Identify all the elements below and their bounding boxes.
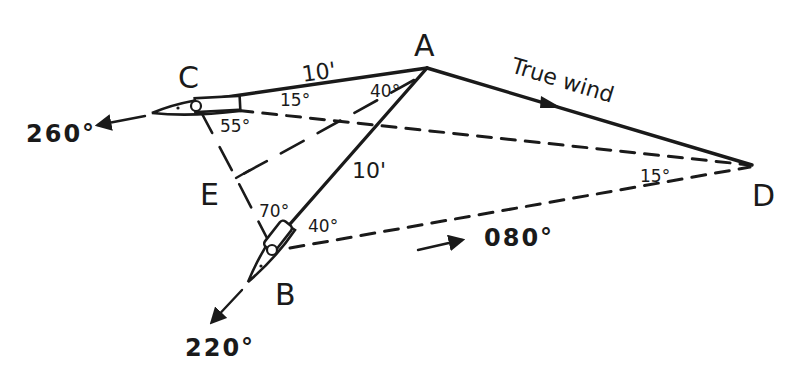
angle-label-b-upper: 70°: [259, 201, 289, 221]
diagram-canvas: A C D E B 10' 10' True wind 40° 15° 55° …: [0, 0, 795, 384]
true-wind-label: True wind: [508, 53, 617, 108]
boat-c-icon: [152, 96, 240, 115]
point-label-a: A: [414, 28, 435, 63]
point-label-c: C: [178, 60, 199, 95]
dashed-line-c-d: [215, 108, 750, 165]
length-label-ab: 10': [352, 158, 386, 183]
angle-label-a: 40°: [370, 81, 400, 101]
point-label-b: B: [275, 277, 296, 312]
true-wind-arrow-icon: [540, 96, 562, 108]
heading-arrow-080: [418, 240, 462, 250]
point-label-d: D: [752, 178, 775, 213]
heading-arrow-260: [98, 116, 145, 125]
heading-label-260: 260°: [26, 120, 96, 148]
heading-label-220: 220°: [185, 334, 255, 362]
angle-label-c-upper: 15°: [280, 90, 310, 110]
length-label-ca: 10': [300, 57, 337, 86]
angle-label-b-right: 40°: [308, 216, 338, 236]
heading-label-080: 080°: [484, 224, 554, 252]
angle-label-d: 15°: [640, 166, 670, 186]
boat-b-icon: [248, 219, 295, 282]
dashed-line-e-tick: [236, 170, 250, 178]
heading-arrow-220: [212, 290, 242, 322]
angle-label-c-lower: 55°: [220, 116, 250, 136]
point-label-e: E: [200, 177, 219, 212]
